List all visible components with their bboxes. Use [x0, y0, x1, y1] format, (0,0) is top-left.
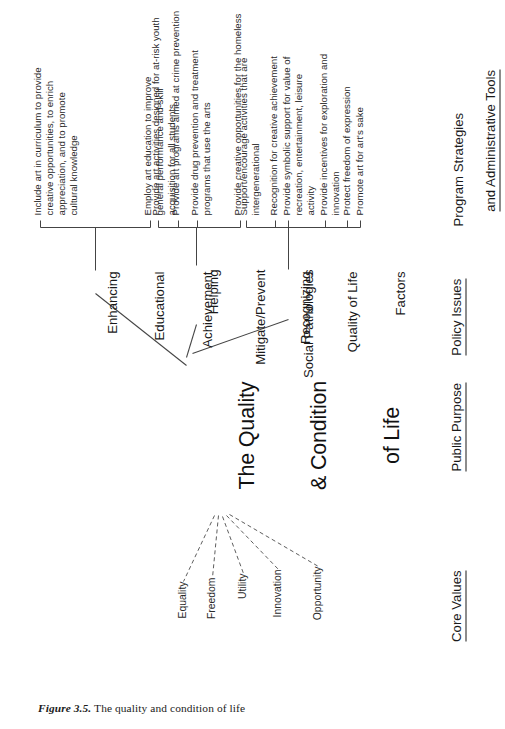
leaf-recognizing-4: Provide incentives for exploration and i…: [317, 15, 341, 215]
leaf-helping-3: Provide drug prevention and treatment pr…: [188, 3, 212, 215]
column-heading-program-strategies-line2: and Administrative Tools: [482, 69, 500, 211]
leaf-recognizing-5: Protect freedom of expression: [340, 15, 352, 215]
leaf-enhancing-1: Include art in curriculum to provide cre…: [31, 7, 80, 215]
branch-title-line1: Helping: [205, 269, 221, 419]
branch-title-recognizing-quality-of-life-factors: Recognizing Quality of Life Factors: [265, 271, 439, 411]
branch-title-line2: Educational: [151, 271, 167, 393]
core-value-freedom: Freedom: [205, 577, 217, 667]
leaf-helping-1: Provide art activities designed for at-r…: [149, 3, 161, 215]
wire-hub-to-opportunity: [229, 514, 318, 566]
figure-caption-text: The quality and condition of life: [91, 702, 245, 714]
core-value-equality: Equality: [176, 581, 188, 671]
wire-hub-to-freedom: [212, 515, 218, 577]
column-heading-policy-issues: Policy Issues: [432, 249, 482, 399]
column-heading-core-values-label: Core Values: [448, 570, 466, 642]
wire-hub-to-equality: [183, 515, 214, 581]
column-heading-core-values: Core Values: [432, 543, 482, 683]
leaf-recognizing-1: Support/encourage activities that are in…: [237, 15, 261, 215]
branch-title-line1: Enhancing: [104, 271, 120, 393]
leaf-recognizing-6: Promote art for art's sake: [353, 15, 365, 215]
branch-title-line3: Factors: [392, 271, 408, 411]
leaf-recognizing-3: Provide symbolic support for value of re…: [280, 15, 316, 215]
branch-title-line1: Recognizing: [297, 271, 313, 411]
figure-number: Figure 3.5.: [38, 702, 91, 714]
core-value-opportunity: Opportunity: [311, 566, 323, 673]
branch-title-line2: Quality of Life: [344, 271, 360, 411]
leaf-helping-2: Provide art programs aimed at crime prev…: [169, 3, 181, 215]
core-value-innovation: Innovation: [271, 569, 283, 671]
leaf-recognizing-2: Recognition for creative achievement: [267, 15, 279, 215]
wire-hub-to-utility: [222, 516, 243, 573]
column-heading-policy-issues-label: Policy Issues: [448, 278, 466, 355]
figure-caption: Figure 3.5. The quality and condition of…: [38, 702, 458, 714]
column-heading-program-strategies: Program Strategies and Administrative To…: [418, 26, 505, 226]
wire-hub-to-innovation: [226, 515, 278, 569]
core-value-utility: Utility: [236, 573, 248, 663]
column-heading-program-strategies-line1: Program Strategies: [450, 26, 466, 226]
